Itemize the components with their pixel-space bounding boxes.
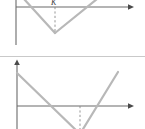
bottom-payoff-left-branch [17, 73, 80, 129]
bottom-payoff-panel: K [0, 56, 145, 129]
bottom-payoff-right-branch [80, 72, 118, 129]
bottom-y-axis-arrow-icon [14, 60, 20, 66]
top-panel-chart [0, 0, 145, 56]
top-payoff-panel: K [0, 0, 145, 56]
bottom-panel-chart [0, 56, 145, 129]
top-payoff-right-branch [55, 0, 97, 33]
option-payoff-figure: K K [0, 0, 145, 129]
top-x-axis-arrow-icon [128, 4, 134, 10]
bottom-x-axis-arrow-icon [128, 103, 134, 109]
top-strike-label: K [51, 0, 56, 7]
